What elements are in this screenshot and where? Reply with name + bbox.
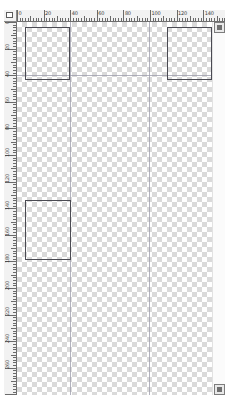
corner-glyph-icon bbox=[217, 25, 222, 30]
ruler-tick-v bbox=[13, 33, 16, 34]
ruler-tick-v bbox=[13, 25, 16, 26]
ruler-tick-h bbox=[145, 18, 146, 21]
ruler-tick-v bbox=[13, 291, 16, 292]
ruler-tick-v bbox=[13, 307, 16, 308]
ruler-tick-v bbox=[13, 190, 16, 191]
ruler-tick-v bbox=[13, 198, 16, 199]
ruler-tick-v bbox=[13, 147, 16, 148]
ruler-tick-v bbox=[13, 91, 16, 92]
selection-middle-left[interactable] bbox=[25, 200, 71, 260]
ruler-tick-v bbox=[13, 171, 16, 172]
ruler-tick-v bbox=[13, 392, 16, 393]
canvas-resize-handle[interactable] bbox=[214, 384, 225, 395]
ruler-tick-v bbox=[13, 174, 16, 175]
ruler-tick-v bbox=[13, 296, 16, 297]
image-editor-window: 020406080100120140 020406080100120140160… bbox=[0, 0, 229, 407]
ruler-label-v: 0 bbox=[4, 22, 10, 24]
ruler-tick-h bbox=[94, 18, 95, 21]
ruler-tick-h bbox=[57, 16, 58, 21]
ruler-label-h: 0 bbox=[19, 10, 22, 16]
ruler-tick-v bbox=[13, 232, 16, 233]
ruler-tick-v bbox=[13, 280, 16, 281]
ruler-tick-h bbox=[222, 18, 223, 21]
ruler-tick-v bbox=[13, 344, 16, 345]
ruler-tick-h bbox=[211, 18, 212, 21]
ruler-tick-v bbox=[13, 336, 16, 337]
ruler-tick-h bbox=[190, 16, 191, 21]
ruler-tick-v bbox=[13, 136, 16, 137]
ruler-tick-h bbox=[174, 18, 175, 21]
ruler-tick-v bbox=[13, 65, 16, 66]
ruler-tick-h bbox=[25, 18, 26, 21]
ruler-tick-h bbox=[171, 18, 172, 21]
ruler-tick-v bbox=[13, 184, 16, 185]
ruler-tick-h bbox=[224, 18, 225, 21]
ruler-label-h: 100 bbox=[152, 10, 161, 16]
ruler-tick-v bbox=[13, 264, 16, 265]
selection-top-right[interactable] bbox=[167, 27, 212, 80]
editor-frame: 020406080100120140 020406080100120140160… bbox=[4, 10, 225, 395]
ruler-tick-h bbox=[134, 18, 135, 21]
ruler-origin-button[interactable] bbox=[4, 10, 17, 22]
ruler-tick-v bbox=[13, 386, 16, 387]
ruler-tick-h bbox=[54, 18, 55, 21]
ruler-tick-v bbox=[13, 96, 16, 97]
ruler-tick-h bbox=[185, 18, 186, 21]
vertical-scrollbar[interactable] bbox=[212, 22, 225, 395]
ruler-tick-h bbox=[139, 18, 140, 21]
guide-vertical-2[interactable] bbox=[149, 22, 150, 395]
ruler-label-v: 160 bbox=[4, 227, 10, 236]
ruler-tick-v bbox=[13, 309, 16, 310]
ruler-tick-v bbox=[11, 62, 16, 63]
ruler-tick-h bbox=[163, 16, 164, 21]
ruler-tick-h bbox=[30, 16, 31, 21]
ruler-tick-v bbox=[13, 216, 16, 217]
ruler-tick-v bbox=[13, 253, 16, 254]
ruler-tick-h bbox=[102, 18, 103, 21]
ruler-origin-glyph-icon bbox=[6, 12, 13, 18]
ruler-tick-v bbox=[13, 86, 16, 87]
canvas-corner-top-right[interactable] bbox=[214, 22, 225, 33]
ruler-tick-v bbox=[13, 362, 16, 363]
ruler-label-h: 120 bbox=[178, 10, 187, 16]
ruler-tick-v bbox=[13, 299, 16, 300]
ruler-label-h: 20 bbox=[45, 10, 51, 16]
ruler-tick-h bbox=[193, 18, 194, 21]
ruler-tick-v bbox=[13, 277, 16, 278]
ruler-tick-v bbox=[11, 328, 16, 329]
ruler-tick-v bbox=[13, 293, 16, 294]
ruler-tick-v bbox=[13, 176, 16, 177]
ruler-tick-h bbox=[110, 16, 111, 21]
ruler-label-v: 80 bbox=[4, 124, 10, 130]
canvas-viewport[interactable] bbox=[17, 22, 225, 395]
ruler-tick-h bbox=[182, 18, 183, 21]
ruler-tick-v bbox=[13, 304, 16, 305]
ruler-tick-v bbox=[13, 123, 16, 124]
ruler-tick-v bbox=[13, 229, 16, 230]
ruler-tick-h bbox=[49, 18, 50, 21]
ruler-tick-v bbox=[13, 320, 16, 321]
ruler-tick-h bbox=[105, 18, 106, 21]
ruler-label-h: 140 bbox=[205, 10, 214, 16]
ruler-tick-v bbox=[13, 192, 16, 193]
ruler-tick-h bbox=[131, 18, 132, 21]
ruler-tick-v bbox=[13, 267, 16, 268]
ruler-tick-v bbox=[13, 43, 16, 44]
ruler-tick-v bbox=[13, 54, 16, 55]
ruler-tick-v bbox=[13, 285, 16, 286]
ruler-tick-v bbox=[5, 394, 16, 395]
ruler-tick-h bbox=[137, 16, 138, 21]
ruler-tick-v bbox=[13, 325, 16, 326]
ruler-label-v: 60 bbox=[4, 97, 10, 103]
ruler-tick-v bbox=[13, 389, 16, 390]
ruler-tick-v bbox=[13, 227, 16, 228]
ruler-tick-h bbox=[217, 16, 218, 21]
ruler-tick-v bbox=[11, 195, 16, 196]
vertical-ruler[interactable]: 020406080100120140160180200220240260 bbox=[4, 22, 17, 395]
selection-top-left[interactable] bbox=[25, 27, 70, 80]
ruler-label-v: 240 bbox=[4, 334, 10, 343]
ruler-label-v: 180 bbox=[4, 254, 10, 263]
ruler-tick-v bbox=[13, 259, 16, 260]
ruler-tick-h bbox=[89, 18, 90, 21]
horizontal-ruler[interactable]: 020406080100120140 bbox=[17, 10, 225, 22]
